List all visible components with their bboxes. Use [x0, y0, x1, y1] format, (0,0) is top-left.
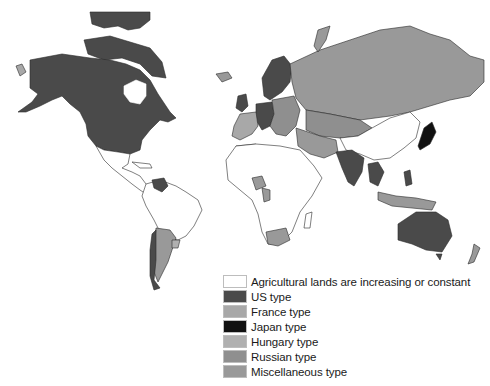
legend-label: France type — [251, 306, 311, 318]
region-uruguay — [172, 240, 180, 248]
region-tasmania — [436, 254, 442, 260]
region-france-iberia — [232, 112, 258, 140]
legend-swatch-france — [223, 305, 247, 318]
legend-item-increasing: Agricultural lands are increasing or con… — [223, 274, 470, 289]
region-uk — [236, 94, 248, 112]
legend-item-japan: Japan type — [223, 319, 470, 334]
legend-label: Japan type — [251, 321, 306, 333]
region-africa — [226, 144, 322, 244]
legend-label: Russian type — [251, 351, 316, 363]
legend-item-hungary: Hungary type — [223, 334, 470, 349]
legend-swatch-japan — [223, 320, 247, 333]
legend-swatch-russian — [223, 350, 247, 363]
legend-label: Hungary type — [251, 336, 318, 348]
legend-item-us: US type — [223, 289, 470, 304]
legend-item-russian: Russian type — [223, 349, 470, 364]
region-southeast-asia — [368, 162, 384, 186]
region-madagascar — [304, 212, 312, 228]
region-philippines — [404, 170, 412, 186]
region-japan — [418, 122, 436, 150]
region-aleutian — [16, 64, 26, 76]
legend-swatch-increasing — [223, 275, 247, 288]
region-eastern-europe — [270, 96, 300, 136]
legend-item-france: France type — [223, 304, 470, 319]
region-scandinavia — [262, 56, 292, 100]
legend-swatch-hungary — [223, 335, 247, 348]
region-australia — [398, 212, 452, 252]
legend-label: Miscellaneous type — [251, 366, 347, 378]
legend-label: Agricultural lands are increasing or con… — [251, 276, 470, 288]
legend-swatch-us — [223, 290, 247, 303]
region-cuba — [132, 162, 152, 168]
region-new-zealand — [468, 244, 480, 264]
region-india — [336, 150, 364, 186]
map-legend: Agricultural lands are increasing or con… — [223, 274, 470, 379]
legend-swatch-misc — [223, 365, 247, 378]
region-central-america — [96, 146, 152, 194]
region-arctic-islands — [90, 12, 150, 30]
region-indonesia — [378, 192, 436, 210]
region-iceland — [216, 72, 232, 82]
legend-item-misc: Miscellaneous type — [223, 364, 470, 379]
region-argentina — [154, 228, 176, 282]
legend-label: US type — [251, 291, 291, 303]
region-south-america — [142, 180, 202, 240]
